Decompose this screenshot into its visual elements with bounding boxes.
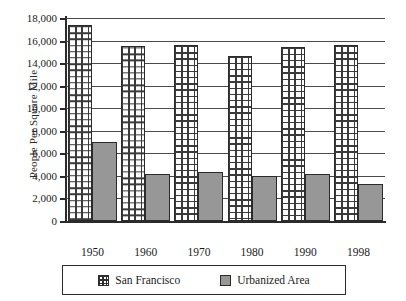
bar-group-1980 [226, 18, 279, 221]
bar-urbanized-area-1998 [358, 184, 383, 221]
bar-urbanized-area-1970 [198, 172, 223, 221]
bar-urbanized-area-1950 [92, 142, 117, 221]
bar-group-1960 [119, 18, 172, 221]
x-axis-tick-label-1980: 1980 [226, 246, 279, 258]
bar-san-francisco-1998 [334, 45, 358, 221]
bar-urbanized-area-1960 [145, 174, 170, 221]
x-axis-tick-label-1998: 1998 [332, 246, 385, 258]
y-axis-tick-label: 0 [52, 215, 58, 227]
plot-area: 02,0004,0006,0008,00010,00012,00014,0001… [66, 18, 385, 221]
bar-san-francisco-1970 [174, 45, 198, 221]
y-axis-tick-label: 10,000 [27, 102, 57, 114]
legend-item-san-francisco: San Francisco [98, 274, 180, 286]
y-axis-tick [60, 221, 66, 223]
y-axis-tick-label: 16,000 [27, 35, 57, 47]
y-axis-tick-label: 14,000 [27, 57, 57, 69]
bar-chart: People Per Square Mile 02,0004,0006,0008… [0, 0, 406, 301]
bar-urbanized-area-1980 [252, 176, 277, 221]
bar-group-1970 [172, 18, 225, 221]
x-axis-tick-label-1950: 1950 [66, 246, 119, 258]
bar-san-francisco-1960 [121, 46, 145, 221]
x-axis-tick-label-1960: 1960 [119, 246, 172, 258]
bar-san-francisco-1990 [281, 47, 305, 221]
legend-label-san-francisco: San Francisco [115, 274, 180, 286]
y-axis-tick-label: 2,000 [32, 192, 57, 204]
y-axis-tick-label: 4,000 [32, 170, 57, 182]
grid-pattern-swatch-icon [98, 275, 109, 286]
x-axis-tick-label-1990: 1990 [279, 246, 332, 258]
bar-san-francisco-1980 [228, 56, 252, 221]
y-axis-tick-label: 8,000 [32, 125, 57, 137]
bar-urbanized-area-1990 [305, 174, 330, 221]
chart-legend: San Francisco Urbanized Area [62, 265, 346, 295]
bar-san-francisco-1950 [68, 25, 92, 221]
y-axis-tick-label: 12,000 [27, 80, 57, 92]
y-axis-tick-label: 6,000 [32, 147, 57, 159]
y-axis-tick-label: 18,000 [27, 12, 57, 24]
legend-item-urbanized-area: Urbanized Area [220, 274, 309, 286]
bar-group-1990 [279, 18, 332, 221]
legend-label-urbanized-area: Urbanized Area [237, 274, 309, 286]
bar-group-1998 [332, 18, 385, 221]
bar-group-1950 [66, 18, 119, 221]
x-axis-line [65, 221, 386, 223]
x-axis-tick-label-1970: 1970 [172, 246, 225, 258]
gray-solid-swatch-icon [220, 275, 231, 286]
